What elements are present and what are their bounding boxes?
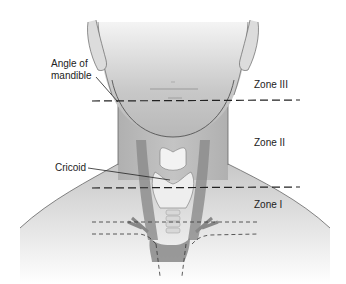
label-zone-iii: Zone III	[254, 79, 288, 91]
label-angle-of-mandible-line1: Angle of	[51, 58, 92, 70]
label-angle-of-mandible-line2: mandible	[51, 70, 92, 82]
label-zone-i: Zone I	[254, 199, 282, 211]
label-cricoid: Cricoid	[55, 162, 86, 174]
label-angle-of-mandible: Angle of mandible	[51, 58, 92, 82]
label-zone-ii: Zone II	[254, 137, 285, 149]
neck-zones-diagram	[0, 0, 346, 284]
